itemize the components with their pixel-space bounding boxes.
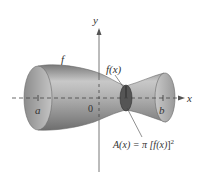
- origin-label: 0: [88, 103, 93, 114]
- area-formula-lhs: A(x) = π [: [112, 139, 154, 151]
- solid-body: [38, 65, 166, 130]
- right-end-cap: [155, 73, 175, 122]
- upper-limit-label: b: [159, 104, 165, 116]
- lower-limit-label: a: [35, 104, 41, 116]
- x-axis-arrow-icon: [178, 96, 185, 101]
- y-axis-label: y: [92, 14, 98, 26]
- area-formula: A(x) = π [f(x)]2: [112, 138, 175, 151]
- radius-label: f(x): [106, 63, 122, 76]
- x-axis-label: x: [186, 92, 192, 104]
- y-axis-arrow-icon: [97, 28, 102, 35]
- curve-label: f: [61, 53, 66, 65]
- solid-of-revolution-diagram: y x 0 a b f f(x) A(x) = π [f(x)]2: [0, 0, 203, 179]
- area-formula-exponent: 2: [171, 138, 175, 146]
- area-formula-inner: f(x): [153, 139, 168, 151]
- diagram-canvas: y x 0 a b f f(x) A(x) = π [f(x)]2: [0, 0, 203, 179]
